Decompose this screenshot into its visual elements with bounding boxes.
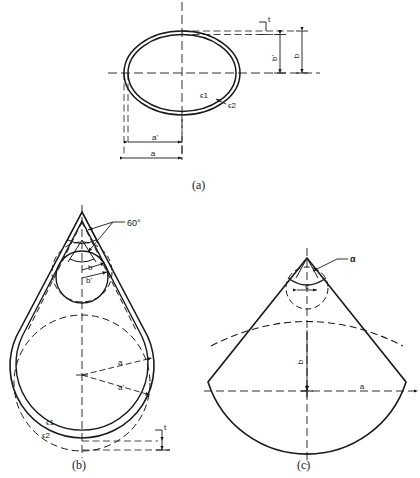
- panel-b-apex-wedge-upper: [66, 212, 98, 243]
- panel-b-label-t: t: [164, 423, 167, 432]
- figure-canvas: t b' b ϵ1 ϵ2 a': [0, 0, 420, 478]
- panel-a-label-t: t: [268, 15, 271, 24]
- panel-b-tangent-left-dashed: [28, 222, 82, 330]
- panel-a-dim-b: b: [292, 31, 308, 73]
- panel-a-label-a: a: [151, 149, 156, 158]
- panel-c-dim-b: b: [296, 330, 307, 391]
- panel-a-label-eps2: ϵ2: [228, 101, 237, 110]
- panel-c-label-alpha: α: [350, 254, 356, 264]
- panel-a-dim-b-prime: b': [270, 35, 286, 74]
- panel-b-label-a: a: [118, 358, 123, 367]
- panel-c-label-c: c: [305, 282, 309, 291]
- panel-a-label-b: b: [292, 53, 301, 58]
- panel-c-center-mark: [301, 385, 313, 397]
- panel-a-label-a-prime: a': [152, 133, 158, 142]
- drawing-svg: t b' b ϵ1 ϵ2 a': [0, 0, 420, 478]
- panel-b-label-eps1: ϵ1: [46, 418, 55, 427]
- panel-a: t b' b ϵ1 ϵ2 a': [108, 2, 320, 160]
- caption-b: (b): [72, 458, 86, 473]
- panel-c-label-b: b: [296, 359, 305, 364]
- panel-b-label-60deg: 60°: [127, 218, 141, 228]
- panel-b-label-b: b: [88, 263, 93, 272]
- panel-b: 60° b b' a a' ϵ1 ϵ2 t: [10, 205, 170, 458]
- panel-c: α c b a: [204, 248, 418, 465]
- panel-a-dim-a: a: [124, 149, 182, 158]
- panel-a-thickness-callout: t: [259, 15, 271, 35]
- panel-a-dim-a-prime: a': [128, 133, 182, 142]
- panel-b-dim-apex-radii: b b': [82, 263, 107, 285]
- panel-c-angle-callout: α: [313, 254, 356, 271]
- caption-c: (c): [297, 458, 310, 473]
- panel-b-dim-body-radii: a a': [76, 358, 152, 395]
- panel-a-label-eps1: ϵ1: [200, 91, 209, 100]
- panel-b-label-b-prime: b': [86, 276, 92, 285]
- panel-c-label-a: a: [360, 382, 365, 391]
- caption-a: (a): [192, 178, 205, 193]
- panel-b-label-a-prime: a': [118, 383, 124, 392]
- panel-c-dim-c: c: [297, 282, 317, 291]
- panel-a-label-b-prime: b': [270, 55, 279, 61]
- panel-b-label-eps2: ϵ2: [42, 431, 51, 440]
